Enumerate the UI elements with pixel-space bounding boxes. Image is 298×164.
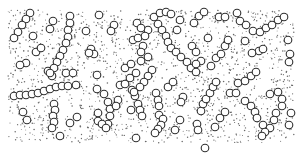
stipple-dot — [60, 10, 61, 11]
stipple-dot — [211, 75, 212, 76]
stipple-dot — [148, 20, 149, 21]
stipple-dot — [243, 67, 244, 68]
stipple-dot — [42, 127, 43, 128]
stipple-dot — [191, 37, 192, 38]
stipple-dot — [182, 72, 183, 73]
stipple-dot — [94, 63, 95, 64]
stipple-dot — [238, 101, 239, 102]
stipple-dot — [75, 29, 76, 30]
stipple-dot — [225, 35, 227, 37]
stipple-dot — [292, 93, 293, 94]
particle-circle — [106, 112, 114, 120]
stipple-dot — [277, 35, 278, 36]
stipple-dot — [25, 39, 27, 41]
stipple-dot — [144, 106, 145, 107]
stipple-dot — [246, 67, 247, 68]
stipple-dot — [231, 87, 232, 88]
stipple-dot — [232, 17, 233, 18]
stipple-dot — [153, 141, 154, 142]
particle-circle — [176, 116, 184, 124]
stipple-dot — [44, 58, 45, 59]
stipple-dot — [90, 94, 91, 95]
stipple-dot — [209, 27, 210, 28]
stipple-dot — [191, 15, 192, 16]
stipple-dot — [8, 136, 9, 137]
stipple-dot — [120, 116, 121, 117]
stipple-dot — [147, 96, 149, 98]
stipple-dot — [115, 32, 117, 34]
stipple-dot — [16, 137, 17, 138]
stipple-dot — [188, 75, 189, 76]
stipple-dot — [32, 18, 34, 20]
stipple-dot — [64, 130, 65, 131]
stipple-dot — [114, 71, 115, 72]
stipple-dot — [226, 63, 227, 64]
stipple-dot — [236, 141, 237, 142]
stipple-dot — [181, 141, 183, 143]
stipple-dot — [9, 110, 10, 111]
stipple-dot — [76, 52, 78, 54]
stipple-dot — [230, 70, 231, 71]
stipple-dot — [194, 78, 196, 80]
stipple-dot — [113, 124, 114, 125]
stipple-dot — [175, 76, 176, 77]
stipple-dot — [79, 28, 80, 29]
stipple-dot — [123, 48, 125, 50]
stipple-dot — [40, 117, 41, 118]
stipple-dot — [286, 71, 288, 73]
stipple-dot — [269, 122, 270, 123]
stipple-dot — [80, 125, 82, 127]
particle-circle — [207, 62, 215, 70]
stipple-dot — [228, 137, 229, 138]
stipple-dot — [208, 105, 209, 106]
particle-circle — [137, 48, 145, 56]
stipple-dot — [167, 137, 169, 139]
stipple-dot — [285, 92, 286, 93]
stipple-dot — [153, 32, 154, 33]
stipple-dot — [180, 78, 181, 79]
stipple-dot — [113, 97, 114, 98]
stipple-dot — [70, 59, 71, 60]
stipple-dot — [108, 25, 109, 26]
stipple-dot — [121, 73, 122, 74]
stipple-dot — [187, 89, 188, 90]
stipple-dot — [83, 90, 84, 91]
stipple-dot — [94, 34, 95, 35]
stipple-dot — [150, 92, 151, 93]
stipple-dot — [52, 98, 53, 99]
stipple-dot — [17, 104, 19, 106]
stipple-dot — [223, 74, 224, 75]
stipple-dot — [84, 139, 85, 140]
stipple-dot — [184, 134, 185, 135]
stipple-dot — [41, 129, 42, 130]
stipple-dot — [103, 11, 104, 12]
stipple-dot — [239, 103, 240, 104]
stipple-dot — [36, 31, 38, 33]
stipple-dot — [255, 99, 256, 100]
stipple-dot — [264, 96, 265, 97]
stipple-dot — [94, 108, 95, 109]
stipple-dot — [119, 44, 120, 45]
stipple-dot — [117, 78, 118, 79]
stipple-dot — [283, 81, 284, 82]
stipple-dot — [249, 40, 250, 41]
stipple-dot — [234, 142, 235, 143]
stipple-dot — [89, 138, 90, 139]
stipple-dot — [237, 64, 238, 65]
stipple-dot — [92, 128, 93, 129]
stipple-dot — [203, 84, 205, 86]
stipple-dot — [37, 111, 38, 112]
stipple-dot — [13, 88, 14, 89]
stipple-dot — [220, 136, 221, 137]
particle-circle — [190, 19, 198, 27]
stipple-dot — [99, 55, 100, 56]
stipple-dot — [177, 65, 178, 66]
stipple-dot — [43, 97, 44, 98]
stipple-dot — [78, 43, 80, 45]
stipple-dot — [70, 137, 71, 138]
stipple-dot — [282, 50, 284, 52]
stipple-dot — [233, 68, 234, 69]
stipple-dot — [45, 107, 46, 108]
particle-circle — [137, 57, 145, 65]
stipple-dot — [10, 107, 11, 108]
